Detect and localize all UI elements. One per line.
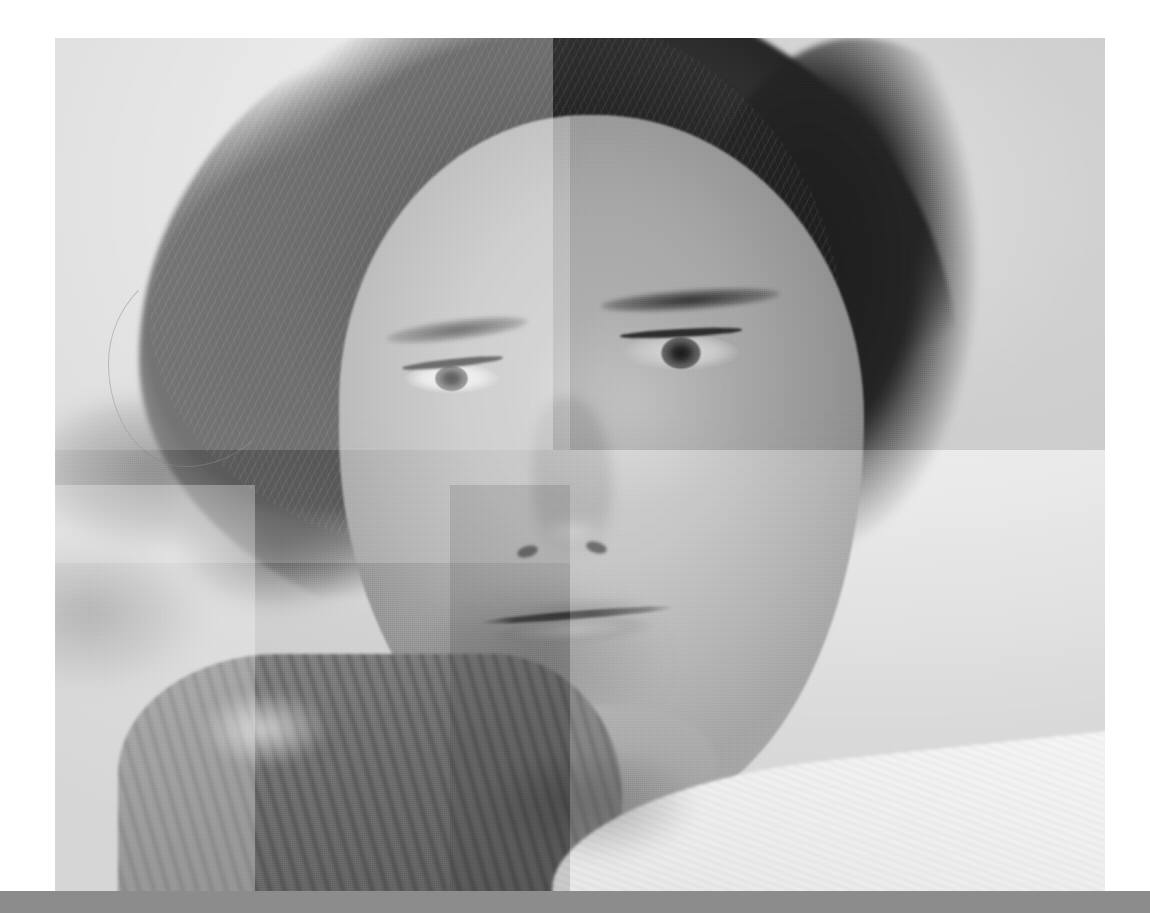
iris-left bbox=[434, 365, 469, 392]
iris-right bbox=[660, 336, 702, 369]
page-canvas bbox=[0, 0, 1150, 913]
portrait-photo bbox=[55, 38, 1105, 893]
footer-band bbox=[0, 891, 1150, 913]
portrait-render bbox=[55, 38, 1105, 893]
collar-highlight bbox=[181, 688, 349, 791]
